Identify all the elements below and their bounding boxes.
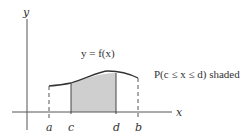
point-label-b: b <box>135 121 142 134</box>
shaded-area <box>71 73 116 112</box>
point-label-a: a <box>46 121 53 134</box>
point-label-d: d <box>113 121 120 134</box>
y-axis-label: y <box>22 6 30 19</box>
x-axis-label: x <box>176 106 183 119</box>
annotation-label: P(c ≤ x ≤ d) shaded <box>154 68 240 81</box>
pdf-diagram: y x y = f(x) P(c ≤ x ≤ d) shaded a c d b <box>0 0 251 137</box>
curve-label: y = f(x) <box>81 47 115 60</box>
point-label-c: c <box>68 121 74 134</box>
